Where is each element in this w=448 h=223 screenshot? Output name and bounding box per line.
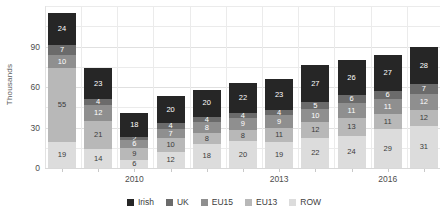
bar-segment-eu13[interactable]: 11 — [265, 128, 293, 143]
bar-segment-uk[interactable]: 7 — [48, 45, 76, 54]
bar-segment-row[interactable]: 18 — [193, 144, 221, 168]
bar-column[interactable]: 275101222 — [301, 6, 329, 168]
bar-segment-row[interactable]: 31 — [410, 126, 438, 168]
bar-column[interactable]: 234122114 — [84, 6, 112, 168]
legend-swatch-icon — [289, 199, 296, 206]
bar-segment-eu15[interactable]: 9 — [229, 118, 257, 130]
bar-segment-irish[interactable]: 24 — [48, 13, 76, 45]
bar-segment-irish[interactable]: 28 — [410, 47, 438, 85]
bar-segment-eu15[interactable]: 9 — [265, 115, 293, 127]
bar-column[interactable]: 182696 — [120, 6, 148, 168]
bar-segment-value: 20 — [203, 99, 211, 107]
bar-segment-row[interactable]: 24 — [338, 136, 366, 168]
bar-segment-value: 14 — [94, 155, 102, 163]
bar-segment-eu15[interactable]: 8 — [193, 122, 221, 133]
x-tick — [62, 169, 63, 172]
x-tick — [352, 169, 353, 172]
bar-segment-value: 7 — [168, 130, 172, 138]
bar-stack: 247105519 — [48, 13, 76, 168]
bar-column[interactable]: 247105519 — [48, 6, 76, 168]
bar-segment-value: 19 — [275, 151, 283, 159]
bar-segment-eu15[interactable]: 7 — [157, 129, 185, 138]
bar-stack: 266111324 — [338, 60, 366, 168]
legend-item-eu13[interactable]: EU13 — [245, 198, 277, 207]
bar-segment-value: 11 — [384, 103, 392, 111]
legend-swatch-icon — [166, 199, 173, 206]
bar-column[interactable]: 2249820 — [229, 6, 257, 168]
legend-item-uk[interactable]: UK — [166, 198, 189, 207]
bar-column[interactable]: 276111129 — [374, 6, 402, 168]
legend-item-eu15[interactable]: EU15 — [201, 198, 233, 207]
bar-segment-row[interactable]: 19 — [48, 142, 76, 168]
bar-segment-row[interactable]: 29 — [374, 129, 402, 168]
bar-segment-row[interactable]: 22 — [301, 138, 329, 168]
bar-segment-value: 27 — [311, 80, 319, 88]
legend-label: Irish — [138, 198, 154, 207]
bar-segment-irish[interactable]: 27 — [301, 65, 329, 101]
bar-segment-value: 26 — [347, 74, 355, 82]
bar-segment-value: 20 — [166, 106, 174, 114]
bar-segment-eu15[interactable]: 11 — [338, 103, 366, 118]
bar-segment-uk[interactable]: 6 — [374, 91, 402, 99]
bar-segment-uk[interactable]: 6 — [338, 95, 366, 103]
legend: IrishUKEU15EU13ROW — [0, 198, 448, 207]
bar-segment-eu15[interactable]: 11 — [374, 99, 402, 114]
bar-segment-value: 11 — [348, 107, 356, 115]
bar-segment-value: 12 — [420, 114, 428, 122]
bar-segment-eu13[interactable]: 10 — [157, 138, 185, 152]
bar-segment-eu15[interactable]: 12 — [84, 105, 112, 121]
bar-stack: 276111129 — [374, 55, 402, 168]
bar-segment-eu13[interactable]: 8 — [229, 130, 257, 141]
x-tick — [98, 169, 99, 172]
x-tick — [424, 169, 425, 172]
bar-segment-irish[interactable]: 18 — [120, 113, 148, 137]
bar-segment-value: 24 — [347, 148, 355, 156]
bar-segment-value: 8 — [241, 132, 245, 140]
bar-segment-irish[interactable]: 20 — [157, 96, 185, 123]
bar-segment-irish[interactable]: 23 — [265, 79, 293, 110]
bar-column[interactable]: 287121231 — [410, 6, 438, 168]
bar-segment-value: 18 — [203, 152, 211, 160]
bar-segment-uk[interactable]: 5 — [301, 102, 329, 109]
bar-segment-eu13[interactable]: 12 — [410, 110, 438, 126]
bar-segment-row[interactable]: 20 — [229, 141, 257, 168]
bar-segment-eu13[interactable]: 11 — [374, 114, 402, 129]
bar-column[interactable]: 23491119 — [265, 6, 293, 168]
bar-segment-eu13[interactable]: 8 — [193, 133, 221, 144]
bar-segment-irish[interactable]: 27 — [374, 55, 402, 91]
bar-stack: 275101222 — [301, 65, 329, 168]
bar-segment-eu15[interactable]: 10 — [301, 109, 329, 123]
bar-segment-irish[interactable]: 20 — [193, 90, 221, 117]
plot-area: 2471055192341221141826962047101220488182… — [45, 6, 440, 168]
bar-column[interactable]: 20471012 — [157, 6, 185, 168]
bar-segment-eu15[interactable]: 12 — [410, 94, 438, 110]
bar-segment-eu13[interactable]: 12 — [301, 122, 329, 138]
bar-segment-row[interactable]: 12 — [157, 152, 185, 168]
legend-item-row[interactable]: ROW — [289, 198, 321, 207]
bar-segment-irish[interactable]: 22 — [229, 83, 257, 113]
bar-segment-row[interactable]: 14 — [84, 149, 112, 168]
bar-segment-eu13[interactable]: 55 — [48, 68, 76, 142]
bar-segment-value: 10 — [58, 58, 66, 66]
bar-segment-row[interactable]: 6 — [120, 160, 148, 168]
legend-item-irish[interactable]: Irish — [127, 198, 154, 207]
bar-segment-irish[interactable]: 23 — [84, 68, 112, 99]
x-tick-label: 2016 — [378, 174, 397, 184]
y-tick-label: 0 — [18, 164, 40, 173]
bar-segment-eu15[interactable]: 10 — [48, 55, 76, 69]
bar-segment-eu13[interactable]: 9 — [120, 148, 148, 160]
bar-segment-uk[interactable]: 7 — [410, 84, 438, 93]
bar-column[interactable]: 266111324 — [338, 6, 366, 168]
bar-segment-value: 11 — [384, 118, 392, 126]
bar-segment-eu13[interactable]: 21 — [84, 121, 112, 149]
bar-segment-row[interactable]: 19 — [265, 142, 293, 168]
bar-segment-irish[interactable]: 26 — [338, 60, 366, 95]
legend-swatch-icon — [245, 199, 252, 206]
bar-stack: 287121231 — [410, 47, 438, 168]
bar-segment-eu13[interactable]: 13 — [338, 118, 366, 136]
bar-stack: 182696 — [120, 113, 148, 168]
x-tick — [279, 169, 280, 172]
bar-segment-eu15[interactable]: 6 — [120, 140, 148, 148]
y-tick-label: 60 — [18, 83, 40, 92]
bar-column[interactable]: 2048818 — [193, 6, 221, 168]
